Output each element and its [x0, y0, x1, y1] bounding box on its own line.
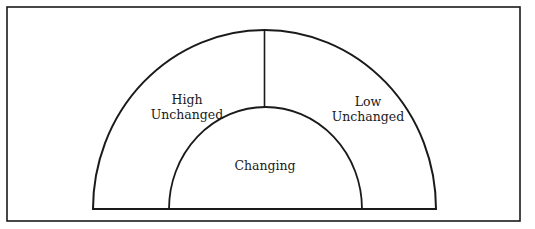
semicircle-diagram: [0, 0, 535, 229]
label-changing-text: Changing: [215, 158, 315, 173]
label-low-unchanged: Low Unchanged: [318, 94, 418, 124]
label-low-line2: Unchanged: [318, 109, 418, 124]
label-low-line1: Low: [318, 94, 418, 109]
outer-frame: [7, 7, 520, 221]
label-changing: Changing: [215, 158, 315, 173]
label-high-line2: Unchanged: [137, 107, 237, 122]
label-high-line1: High: [137, 92, 237, 107]
label-high-unchanged: High Unchanged: [137, 92, 237, 122]
